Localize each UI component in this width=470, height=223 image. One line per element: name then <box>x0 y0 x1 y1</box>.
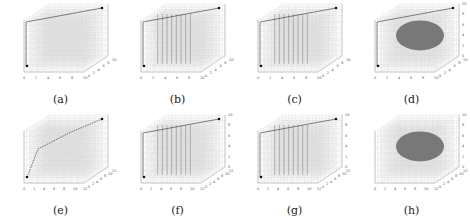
panel-a: 02468100246810(a) <box>2 0 119 111</box>
svg-text:8: 8 <box>345 123 347 127</box>
svg-text:12: 12 <box>112 169 116 173</box>
svg-text:2: 2 <box>228 155 230 159</box>
panel-e: 024681012024681012(e) <box>2 111 119 222</box>
panel-caption: (d) <box>353 93 470 106</box>
svg-text:10: 10 <box>346 58 350 62</box>
panel-g: 0246810120246810120246810(g) <box>236 111 353 222</box>
svg-text:4: 4 <box>215 68 218 72</box>
svg-text:4: 4 <box>449 68 452 72</box>
svg-text:6: 6 <box>293 76 295 80</box>
svg-text:10: 10 <box>229 58 233 62</box>
svg-text:0: 0 <box>140 76 142 80</box>
svg-text:10: 10 <box>307 187 311 191</box>
svg-text:6: 6 <box>334 177 336 181</box>
svg-text:4: 4 <box>213 180 216 184</box>
panel-caption: (g) <box>236 204 353 217</box>
svg-text:6: 6 <box>462 134 464 138</box>
svg-text:4: 4 <box>96 180 99 184</box>
svg-text:8: 8 <box>305 76 307 80</box>
svg-text:4: 4 <box>277 187 280 191</box>
svg-text:6: 6 <box>410 76 412 80</box>
svg-text:0: 0 <box>462 165 464 169</box>
svg-text:4: 4 <box>462 33 465 37</box>
svg-text:6: 6 <box>336 64 338 68</box>
svg-text:2: 2 <box>210 71 212 75</box>
panel-caption: (a) <box>2 93 119 106</box>
svg-text:8: 8 <box>338 174 340 178</box>
svg-text:10: 10 <box>462 113 466 117</box>
svg-text:8: 8 <box>63 187 65 191</box>
svg-text:10: 10 <box>345 113 349 117</box>
lattice-plot: 02468100246810 <box>2 0 119 92</box>
svg-text:10: 10 <box>73 187 77 191</box>
svg-text:8: 8 <box>221 174 223 178</box>
svg-text:10: 10 <box>317 76 321 80</box>
svg-text:4: 4 <box>164 76 167 80</box>
lattice-plot: 024681012024681012 <box>2 111 119 203</box>
svg-text:2: 2 <box>267 187 269 191</box>
svg-text:12: 12 <box>229 169 233 173</box>
svg-text:0: 0 <box>88 185 90 189</box>
panel-caption: (b) <box>119 93 236 106</box>
svg-text:8: 8 <box>462 12 464 16</box>
lattice-plot: 02468100246810 <box>236 0 353 92</box>
svg-text:0: 0 <box>228 165 230 169</box>
svg-text:2: 2 <box>326 182 328 186</box>
svg-text:0: 0 <box>345 165 347 169</box>
svg-text:10: 10 <box>424 187 428 191</box>
svg-text:10: 10 <box>463 58 467 62</box>
svg-text:4: 4 <box>281 76 284 80</box>
svg-text:10: 10 <box>112 58 116 62</box>
svg-text:2: 2 <box>444 71 446 75</box>
svg-text:8: 8 <box>422 76 424 80</box>
svg-text:4: 4 <box>228 144 231 148</box>
svg-text:0: 0 <box>23 76 25 80</box>
svg-text:6: 6 <box>53 187 55 191</box>
svg-text:2: 2 <box>152 76 154 80</box>
svg-text:8: 8 <box>180 187 182 191</box>
svg-text:4: 4 <box>394 187 397 191</box>
svg-text:8: 8 <box>297 187 299 191</box>
svg-text:12: 12 <box>83 187 87 191</box>
svg-text:2: 2 <box>92 182 94 186</box>
lattice-plot: 0246810120246810120246810 <box>236 111 353 203</box>
svg-text:12: 12 <box>434 187 438 191</box>
lattice-plot: 02468100246810 <box>119 0 236 92</box>
svg-text:6: 6 <box>287 187 289 191</box>
svg-text:2: 2 <box>443 182 445 186</box>
svg-text:12: 12 <box>346 169 350 173</box>
svg-text:0: 0 <box>439 185 441 189</box>
svg-text:4: 4 <box>398 76 401 80</box>
svg-text:0: 0 <box>322 185 324 189</box>
svg-text:8: 8 <box>341 61 343 65</box>
svg-text:0: 0 <box>322 74 324 78</box>
svg-text:6: 6 <box>228 134 230 138</box>
panel-c: 02468100246810(c) <box>236 0 353 111</box>
panel-caption: (e) <box>2 204 119 217</box>
svg-text:10: 10 <box>462 2 466 6</box>
svg-text:2: 2 <box>93 71 95 75</box>
svg-text:2: 2 <box>462 155 464 159</box>
panel-caption: (h) <box>353 204 470 217</box>
svg-text:6: 6 <box>462 23 464 27</box>
panel-b: 02468100246810(b) <box>119 0 236 111</box>
svg-text:4: 4 <box>447 180 450 184</box>
svg-text:10: 10 <box>434 76 438 80</box>
svg-text:0: 0 <box>205 185 207 189</box>
lattice-plot: 024681002468100246810 <box>353 0 470 92</box>
svg-text:8: 8 <box>458 61 460 65</box>
svg-text:0: 0 <box>140 187 142 191</box>
svg-text:2: 2 <box>150 187 152 191</box>
svg-text:2: 2 <box>35 76 37 80</box>
svg-text:0: 0 <box>439 74 441 78</box>
svg-text:2: 2 <box>384 187 386 191</box>
svg-text:12: 12 <box>200 187 204 191</box>
svg-text:12: 12 <box>317 187 321 191</box>
lattice-plot: 0246810120246810120246810 <box>119 111 236 203</box>
svg-text:4: 4 <box>330 180 333 184</box>
svg-text:0: 0 <box>257 76 259 80</box>
svg-text:2: 2 <box>33 187 35 191</box>
svg-text:0: 0 <box>374 76 376 80</box>
panel-caption: (c) <box>236 93 353 106</box>
svg-text:6: 6 <box>345 134 347 138</box>
